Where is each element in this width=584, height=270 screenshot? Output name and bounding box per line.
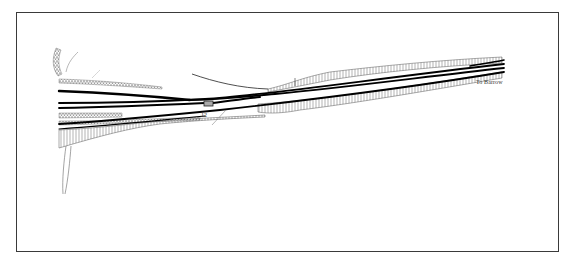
curved-siding bbox=[192, 74, 268, 89]
main-tracks bbox=[59, 60, 504, 129]
road-spur bbox=[63, 146, 71, 194]
track-plan-drawing bbox=[0, 0, 584, 270]
marker-number-label: 12 bbox=[201, 112, 207, 118]
upper-left-embankment bbox=[53, 48, 162, 89]
hut-marker bbox=[204, 101, 213, 106]
upper-embankment bbox=[268, 57, 502, 92]
destination-label: To Barrow bbox=[476, 79, 503, 85]
